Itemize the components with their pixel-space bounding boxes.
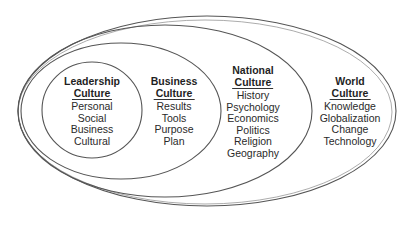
business-culture-title: Business — [151, 76, 198, 88]
leadership-culture-title: Leadership — [64, 76, 120, 88]
leadership-culture-label: Leadership Culture Personal Social Busin… — [64, 76, 120, 147]
national-item: History — [226, 90, 280, 102]
national-culture-label: National Culture History Psychology Econ… — [226, 65, 280, 159]
leadership-item: Personal — [64, 101, 120, 113]
leadership-culture-subtitle: Culture — [72, 88, 113, 101]
national-item: Economics — [226, 113, 280, 125]
world-culture-label: World Culture Knowledge Globalization Ch… — [320, 76, 381, 147]
world-item: Change — [320, 124, 381, 136]
national-culture-title: National — [226, 65, 280, 77]
world-culture-subtitle: Culture — [330, 88, 371, 101]
business-item: Results — [151, 101, 198, 113]
business-item: Purpose — [151, 124, 198, 136]
world-item: Knowledge — [320, 101, 381, 113]
national-item: Geography — [226, 148, 280, 160]
world-culture-title: World — [320, 76, 381, 88]
national-culture-subtitle: Culture — [233, 77, 274, 90]
leadership-item: Business — [64, 124, 120, 136]
business-culture-subtitle: Culture — [154, 88, 195, 101]
national-item: Religion — [226, 136, 280, 148]
leadership-item: Cultural — [64, 136, 120, 148]
business-culture-label: Business Culture Results Tools Purpose P… — [151, 76, 198, 147]
business-item: Plan — [151, 136, 198, 148]
world-item: Technology — [320, 136, 381, 148]
